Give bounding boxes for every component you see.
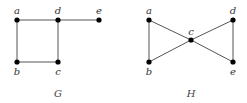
vertex-label: c	[55, 66, 61, 77]
vertex-label: b	[146, 66, 152, 77]
vertex-label: d	[230, 5, 236, 16]
vertex-label: e	[96, 5, 102, 16]
vertex-d	[230, 17, 235, 22]
vertex-a	[146, 17, 151, 22]
vertex-d	[55, 17, 60, 22]
vertex-label: a	[14, 5, 20, 16]
graph-caption: G	[54, 88, 62, 99]
vertex-a	[14, 17, 19, 22]
edge-c-e	[191, 40, 233, 62]
edge-a-c	[149, 20, 191, 40]
vertex-e	[96, 17, 101, 22]
vertex-label: a	[146, 5, 152, 16]
graph-H: adcbeH	[146, 5, 236, 99]
vertex-c	[55, 59, 60, 64]
vertex-label: d	[55, 5, 61, 16]
vertex-c	[188, 37, 193, 42]
vertex-b	[14, 59, 19, 64]
graph-diagram: adebcGadcbeH	[0, 0, 247, 103]
vertex-label: b	[14, 66, 20, 77]
edge-b-c	[149, 40, 191, 62]
graph-caption: H	[186, 88, 196, 99]
graph-G: adebcG	[14, 5, 102, 99]
vertex-b	[146, 59, 151, 64]
edge-c-d	[191, 20, 233, 40]
vertex-e	[230, 59, 235, 64]
vertex-label: e	[230, 66, 236, 77]
vertex-label: c	[188, 26, 194, 37]
